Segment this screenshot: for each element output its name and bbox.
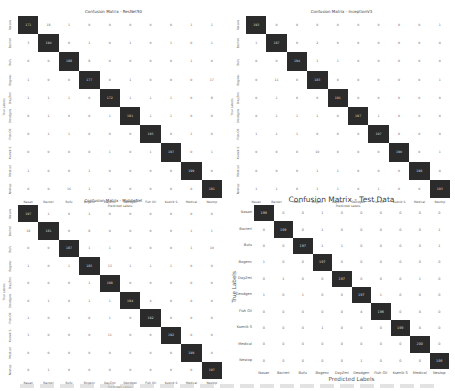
heatmap-cell: 0 <box>332 303 352 319</box>
heatmap-cell: 0 <box>254 353 274 369</box>
heatmap-cell: 0 <box>410 287 430 303</box>
heatmap-cell: 0 <box>254 238 274 254</box>
heatmap-cell: 0 <box>202 205 222 222</box>
heatmap-cell: 0 <box>140 327 160 344</box>
heatmap-cell: 0 <box>140 16 160 34</box>
heatmap-cell: 0 <box>348 34 368 52</box>
heatmap-cell: 0 <box>409 125 429 143</box>
heatmap-grid: 1990010000000199010000010019711000011001… <box>254 205 449 369</box>
y-tick-label: Ksenik S <box>8 146 12 159</box>
heatmap-cell: 0 <box>371 205 391 221</box>
heatmap-cell-diagonal: 194 <box>287 52 307 70</box>
heatmap-cell: 0 <box>287 143 307 161</box>
confusion-matrix-panel: Confusion Matrix - ResNet501711810000011… <box>0 0 227 195</box>
heatmap-cell-diagonal: 197 <box>161 143 181 161</box>
heatmap-cell: 0 <box>328 71 348 89</box>
heatmap-cell: 0 <box>274 353 294 369</box>
heatmap-cell: 0 <box>140 222 160 239</box>
heatmap-cell-diagonal: 190 <box>38 34 58 52</box>
heatmap-cell: 0 <box>161 52 181 70</box>
heatmap-cell: 0 <box>181 362 201 379</box>
heatmap-cell-diagonal: 172 <box>100 89 120 107</box>
heatmap-cell: 1 <box>100 240 120 257</box>
heatmap-cell: 0 <box>391 238 411 254</box>
y-tick-label: Deodgen <box>236 109 240 123</box>
heatmap-cell: 0 <box>410 221 430 237</box>
heatmap-cell: 8 <box>79 222 99 239</box>
heatmap-cell: 0 <box>254 320 274 336</box>
heatmap-cell: 1 <box>202 222 222 239</box>
heatmap-cell: 1 <box>100 292 120 309</box>
heatmap-cell: 0 <box>371 320 391 336</box>
heatmap-cell: 3 <box>18 34 38 52</box>
heatmap-cell: 1 <box>410 271 430 287</box>
heatmap-cell: 1 <box>307 107 327 125</box>
heatmap-cell: 0 <box>409 143 429 161</box>
heatmap-cell: 0 <box>100 222 120 239</box>
heatmap-cell: 1 <box>266 125 286 143</box>
heatmap-cell: 1 <box>181 125 201 143</box>
heatmap-cell: 0 <box>391 271 411 287</box>
heatmap-cell: 0 <box>266 143 286 161</box>
heatmap-cell: 0 <box>274 303 294 319</box>
heatmap-cell: 0 <box>140 162 160 180</box>
heatmap-cell: 1 <box>18 162 38 180</box>
heatmap-cell-diagonal: 196 <box>371 303 391 319</box>
heatmap-cell: 1 <box>140 89 160 107</box>
heatmap-cell: 1 <box>368 107 388 125</box>
heatmap-cell: 0 <box>332 320 352 336</box>
heatmap-cell: 0 <box>391 221 411 237</box>
heatmap-cell: 0 <box>254 336 274 352</box>
heatmap-cell: 0 <box>38 52 58 70</box>
y-tick-label: Bufu <box>244 243 252 247</box>
heatmap-cell: 0 <box>430 89 450 107</box>
heatmap-cell-diagonal: 195 <box>140 125 160 143</box>
heatmap-cell: 0 <box>391 336 411 352</box>
heatmap-cell: 0 <box>181 309 201 326</box>
heatmap-cell: 0 <box>79 16 99 34</box>
heatmap-cell: 0 <box>293 221 313 237</box>
heatmap-cell: 0 <box>274 254 294 270</box>
heatmap-cell: 0 <box>389 162 409 180</box>
heatmap-cell: 0 <box>202 257 222 274</box>
heatmap-cell: 1 <box>59 257 79 274</box>
heatmap-cell: 0 <box>181 71 201 89</box>
heatmap-cell: 1 <box>161 89 181 107</box>
heatmap-cell: 0 <box>371 221 391 237</box>
heatmap-cell: 1 <box>202 34 222 52</box>
y-tick-label: Nestop <box>236 184 240 195</box>
heatmap-cell: 0 <box>140 52 160 70</box>
heatmap-cell: 0 <box>430 162 450 180</box>
y-tick-label: Medical <box>8 165 12 177</box>
heatmap-cell: 0 <box>100 34 120 52</box>
y-tick-label: Ksenik S <box>236 146 240 159</box>
heatmap-cell-diagonal: 177 <box>79 71 99 89</box>
heatmap-cell: 11 <box>100 327 120 344</box>
heatmap-cell: 0 <box>18 143 38 161</box>
y-tick-label: Deodgen <box>8 109 12 123</box>
heatmap-cell: 1 <box>266 89 286 107</box>
heatmap-cell-diagonal: 171 <box>18 16 38 34</box>
heatmap-cell-diagonal: 194 <box>120 292 140 309</box>
heatmap-cell-diagonal: 198 <box>100 275 120 292</box>
heatmap-cell: 0 <box>161 362 181 379</box>
heatmap-cell: 0 <box>430 287 450 303</box>
heatmap-cell-diagonal: 188 <box>59 52 79 70</box>
heatmap-cell: 0 <box>410 205 430 221</box>
heatmap-cell: 0 <box>18 275 38 292</box>
heatmap-cell: 0 <box>181 143 201 161</box>
heatmap-cell: 0 <box>332 221 352 237</box>
heatmap-cell: 4 <box>352 303 372 319</box>
heatmap-cell: 0 <box>430 52 450 70</box>
heatmap-cell: 0 <box>293 336 313 352</box>
x-tick-label: Medical <box>413 371 427 375</box>
heatmap-cell: 0 <box>140 344 160 361</box>
heatmap-cell: 0 <box>246 162 266 180</box>
x-tick-label: Bogenc <box>316 371 329 375</box>
y-tick-label: Nestop <box>8 184 12 195</box>
heatmap-cell: 0 <box>79 362 99 379</box>
heatmap-cell: 1 <box>79 292 99 309</box>
heatmap-cell: 0 <box>79 309 99 326</box>
heatmap-cell: 1 <box>161 107 181 125</box>
heatmap-cell: 11 <box>266 71 286 89</box>
